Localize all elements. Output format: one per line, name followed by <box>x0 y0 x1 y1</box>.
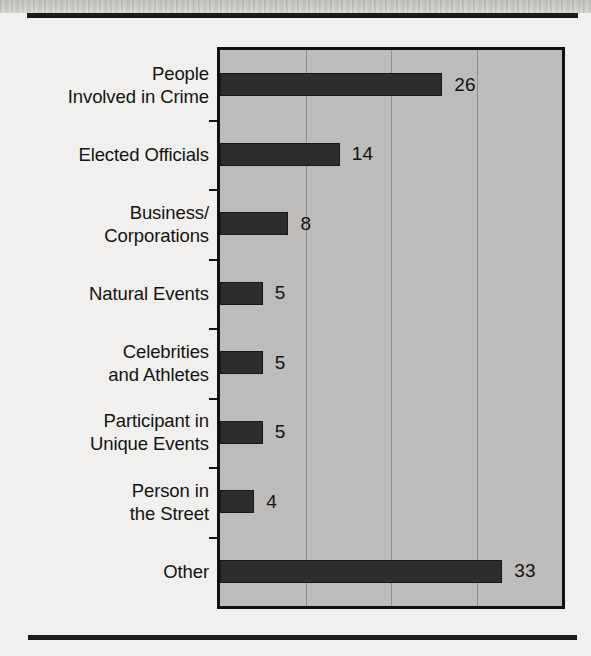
bar-value-label: 4 <box>266 491 277 513</box>
bar-row: 14 <box>220 143 562 166</box>
bar <box>220 351 263 374</box>
category-label: Elected Officials <box>78 143 209 166</box>
category-label: People Involved in Crime <box>68 62 209 108</box>
bar-row: 26 <box>220 73 562 96</box>
plot-area <box>217 47 565 609</box>
axis-tick <box>209 398 220 400</box>
category-label: Business/ Corporations <box>104 201 209 247</box>
bar <box>220 73 442 96</box>
axis-tick <box>209 537 220 539</box>
horizontal-bar-chart: 26People Involved in Crime14Elected Offi… <box>0 18 591 635</box>
gridline-30 <box>477 50 478 606</box>
scanned-page: 26People Involved in Crime14Elected Offi… <box>0 0 591 656</box>
bar-value-label: 26 <box>454 74 476 96</box>
axis-tick <box>209 328 220 330</box>
bar-row: 5 <box>220 282 562 305</box>
axis-tick <box>209 259 220 261</box>
bar <box>220 282 263 305</box>
bar <box>220 560 502 583</box>
horizontal-rule-bottom <box>28 635 577 640</box>
axis-tick <box>209 467 220 469</box>
bar-row: 5 <box>220 421 562 444</box>
bar-value-label: 33 <box>514 560 536 582</box>
bar-value-label: 5 <box>275 352 286 374</box>
bar <box>220 490 254 513</box>
bar <box>220 212 288 235</box>
bar-row: 5 <box>220 351 562 374</box>
category-label: Natural Events <box>89 282 209 305</box>
bar-row: 33 <box>220 560 562 583</box>
gridline-20 <box>391 50 392 606</box>
category-label: Participant in Unique Events <box>90 409 209 455</box>
paper-texture-band <box>0 0 591 13</box>
category-label: Person in the Street <box>130 479 209 525</box>
bar-row: 8 <box>220 212 562 235</box>
bar <box>220 143 340 166</box>
bar-value-label: 5 <box>275 421 286 443</box>
category-label: Celebrities and Athletes <box>108 340 209 386</box>
bar-row: 4 <box>220 490 562 513</box>
axis-tick <box>209 189 220 191</box>
bar-value-label: 5 <box>275 282 286 304</box>
bar <box>220 421 263 444</box>
bar-value-label: 8 <box>300 213 311 235</box>
bar-value-label: 14 <box>352 143 374 165</box>
category-label: Other <box>163 560 209 583</box>
axis-tick <box>209 120 220 122</box>
gridline-10 <box>306 50 307 606</box>
